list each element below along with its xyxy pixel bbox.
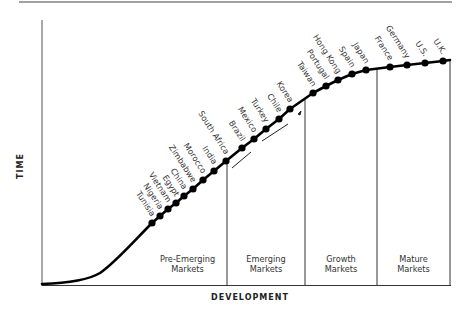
country-dot — [439, 57, 446, 64]
segment-label: Mature — [399, 254, 428, 264]
country-dot — [262, 125, 269, 132]
segment-label: Pre-Emerging — [160, 254, 215, 264]
country-dot — [309, 89, 316, 96]
country-dot — [156, 212, 163, 219]
country-dot — [250, 135, 257, 142]
country-dot — [172, 199, 179, 206]
country-label: U.K. — [431, 37, 448, 56]
segment-label: Growth — [326, 254, 356, 264]
country-dot — [148, 219, 155, 226]
country-dot — [286, 105, 293, 112]
country-dot — [386, 63, 393, 70]
country-points: TunisiaNigeriaVietnamEgyptChinaZimbabweM… — [134, 23, 449, 227]
y-axis-label: TIME — [16, 153, 25, 179]
country-dot — [421, 59, 428, 66]
x-axis-label: DEVELOPMENT — [211, 293, 289, 302]
segment-label: Emerging — [246, 254, 285, 264]
development-curve — [42, 60, 450, 284]
country-dot — [210, 167, 217, 174]
country-dot — [275, 115, 282, 122]
country-dot — [189, 185, 196, 192]
country-dot — [403, 61, 410, 68]
country-dot — [238, 144, 245, 151]
country-dot — [334, 76, 341, 83]
country-dot — [348, 70, 355, 77]
segment-label: Markets — [325, 264, 357, 274]
country-dot — [222, 157, 229, 164]
segment-label: Markets — [250, 264, 282, 274]
country-dot — [199, 176, 206, 183]
country-dot — [322, 82, 329, 89]
market-development-diagram: Pre-EmergingMarketsEmergingMarketsGrowth… — [0, 0, 467, 309]
country-dot — [180, 192, 187, 199]
segment-label: Markets — [171, 264, 203, 274]
country-dot — [164, 205, 171, 212]
country-label: U.S. — [413, 39, 430, 58]
segment-label: Markets — [397, 264, 429, 274]
country-dot — [362, 66, 369, 73]
